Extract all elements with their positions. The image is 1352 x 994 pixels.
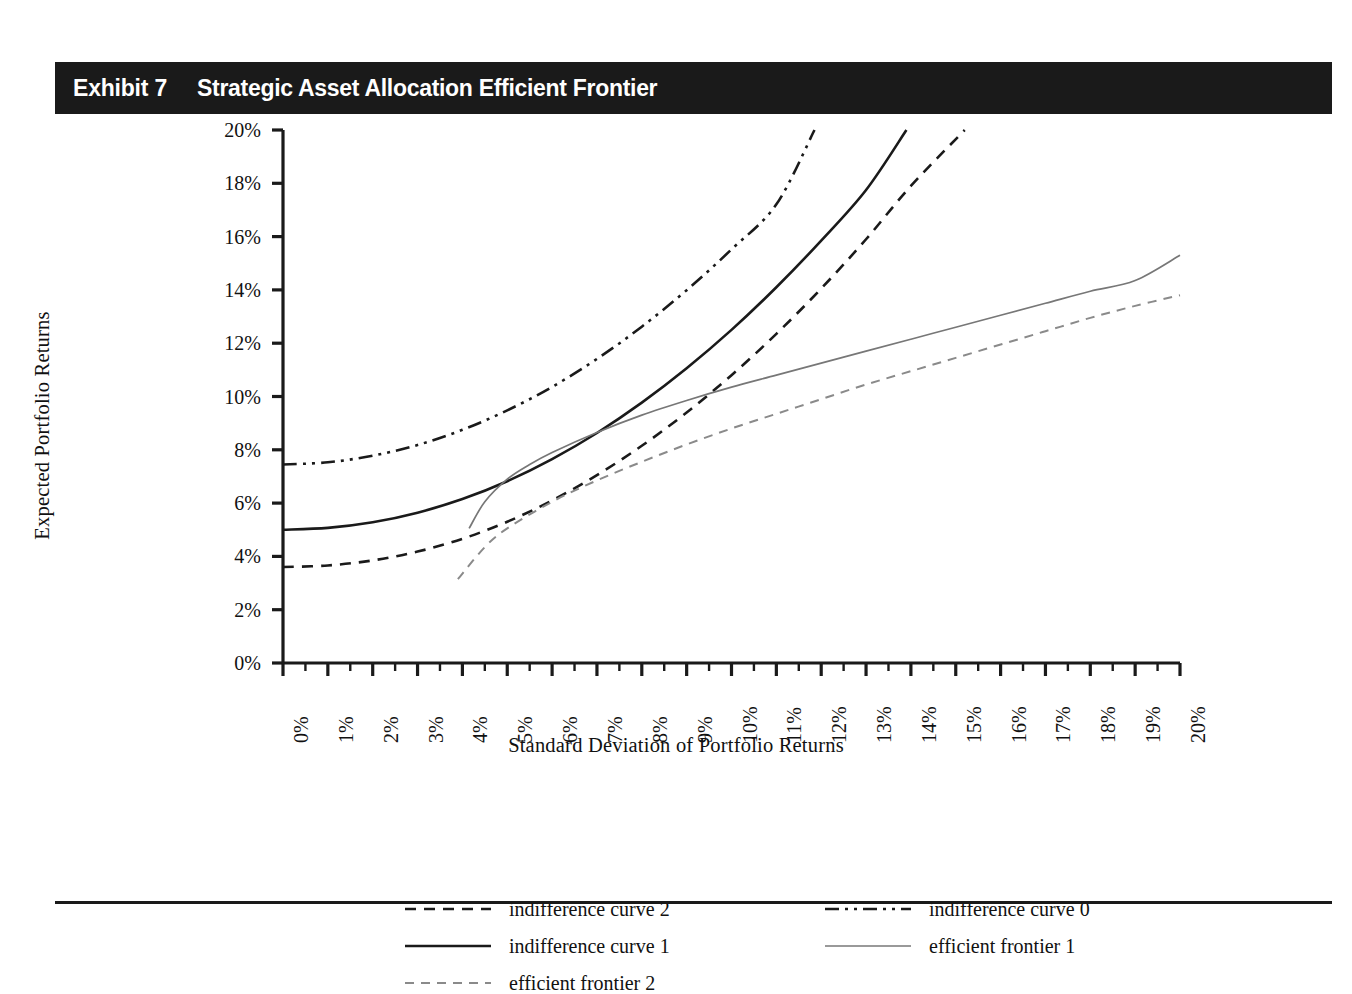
legend-swatch-icon	[825, 902, 911, 916]
exhibit-header-bar: Exhibit 7 Strategic Asset Allocation Eff…	[55, 62, 1332, 114]
y-tick-label: 4%	[191, 546, 261, 566]
x-tick-label: 5%	[515, 683, 535, 743]
x-tick-label: 13%	[874, 683, 894, 743]
x-tick-label: 9%	[695, 683, 715, 743]
chart-figure: Expected Portfolio Returns Standard Devi…	[0, 114, 1352, 774]
x-tick-label: 3%	[426, 683, 446, 743]
y-tick-label: 6%	[191, 493, 261, 513]
x-tick-label: 18%	[1098, 683, 1118, 743]
plot-canvas	[0, 114, 1352, 734]
series-line	[283, 130, 814, 464]
legend-label: efficient frontier 1	[929, 935, 1075, 958]
x-tick-label: 0%	[291, 683, 311, 743]
y-tick-label: 0%	[191, 653, 261, 673]
data-series-group	[283, 130, 1180, 579]
y-tick-label: 2%	[191, 600, 261, 620]
x-tick-label: 17%	[1053, 683, 1073, 743]
x-tick-label: 20%	[1188, 683, 1208, 743]
x-tick-label: 15%	[964, 683, 984, 743]
legend-swatch-icon	[405, 976, 491, 990]
series-line	[283, 130, 906, 530]
x-tick-label: 14%	[919, 683, 939, 743]
y-tick-label: 8%	[191, 440, 261, 460]
x-tick-label: 11%	[784, 683, 804, 743]
x-tick-label: 2%	[381, 683, 401, 743]
y-tick-label: 18%	[191, 173, 261, 193]
legend-item: efficient frontier 1	[825, 933, 1075, 959]
y-tick-label: 20%	[191, 120, 261, 140]
x-tick-label: 8%	[650, 683, 670, 743]
x-tick-label: 7%	[605, 683, 625, 743]
legend-item: efficient frontier 2	[405, 970, 655, 994]
x-tick-label: 6%	[560, 683, 580, 743]
legend-swatch-icon	[405, 939, 491, 953]
y-tick-label: 16%	[191, 227, 261, 247]
legend-swatch-icon	[405, 902, 491, 916]
x-tick-label: 10%	[740, 683, 760, 743]
y-tick-label: 10%	[191, 387, 261, 407]
legend-item: indifference curve 1	[405, 933, 670, 959]
legend-label: efficient frontier 2	[509, 972, 655, 994]
legend-item: indifference curve 0	[825, 896, 1090, 922]
bottom-divider-rule	[55, 901, 1332, 904]
x-tick-label: 16%	[1009, 683, 1029, 743]
x-tick-label: 19%	[1143, 683, 1163, 743]
y-tick-label: 12%	[191, 333, 261, 353]
y-tick-label: 14%	[191, 280, 261, 300]
x-tick-label: 12%	[829, 683, 849, 743]
exhibit-title: Strategic Asset Allocation Efficient Fro…	[197, 75, 657, 102]
x-tick-label: 4%	[470, 683, 490, 743]
axes-group	[272, 130, 1180, 676]
x-tick-label: 1%	[336, 683, 356, 743]
legend-swatch-icon	[825, 939, 911, 953]
chart-legend: indifference curve 2indifference curve 1…	[405, 896, 1045, 994]
exhibit-number: Exhibit 7	[73, 75, 167, 102]
series-line	[458, 295, 1180, 579]
legend-label: indifference curve 1	[509, 935, 670, 958]
legend-item: indifference curve 2	[405, 896, 670, 922]
